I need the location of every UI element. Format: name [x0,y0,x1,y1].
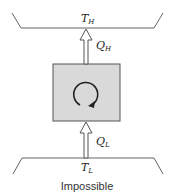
heat-in-label: QL [96,136,110,149]
heat-out-symbol: Q [96,39,105,52]
heat-in-arrow [80,122,92,158]
diagram-caption: Impossible [0,181,174,192]
cold-reservoir-subscript: L [88,167,93,175]
heat-in-symbol: Q [96,135,105,148]
heat-out-label: QH [96,40,111,53]
hot-reservoir-subscript: H [88,18,94,26]
cold-reservoir-label: TL [81,162,93,175]
heat-out-subscript: H [105,45,111,53]
device-box [53,64,120,121]
heat-in-subscript: L [105,141,110,149]
heat-out-arrow [80,29,92,64]
hot-reservoir-label: TH [81,13,94,26]
